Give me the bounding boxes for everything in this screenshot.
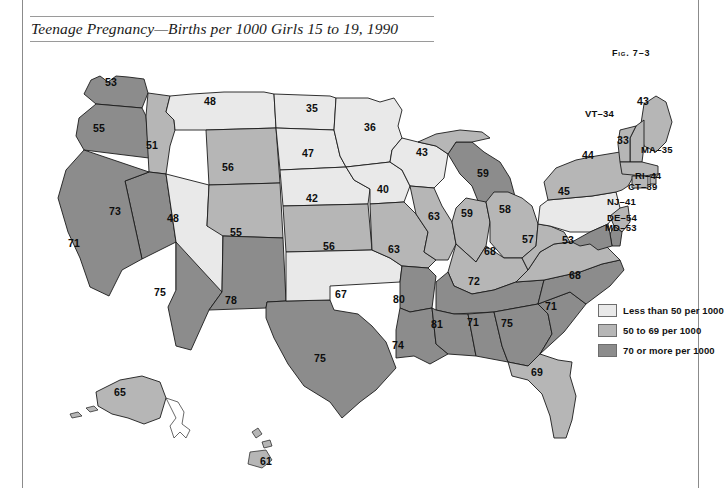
state-value-KY: 68 <box>484 245 496 257</box>
state-value-PA: 45 <box>558 185 570 197</box>
map-legend: Less than 50 per 1000 50 to 69 per 1000 … <box>598 304 716 364</box>
state-OR <box>76 104 149 158</box>
state-value-AZ: 75 <box>154 286 166 298</box>
state-HI-maui <box>262 440 272 448</box>
state-value-MT: 48 <box>204 95 216 107</box>
state-callout-MD: MD–53 <box>605 222 637 233</box>
state-callout-RI: RI–44 <box>635 170 661 181</box>
state-value-OH: 58 <box>499 203 511 215</box>
state-value-MS: 81 <box>431 318 443 330</box>
title-rule-top <box>30 16 434 17</box>
state-callout-CT: CT–39 <box>628 181 658 192</box>
state-value-HI: 61 <box>260 455 272 467</box>
state-value-SD: 47 <box>302 147 314 159</box>
state-value-NH: 33 <box>617 134 629 146</box>
state-CO <box>207 183 283 238</box>
state-value-TN: 72 <box>468 275 480 287</box>
state-value-FL: 69 <box>531 366 543 378</box>
state-value-NE: 42 <box>306 192 318 204</box>
legend-row-high: 70 or more per 1000 <box>598 344 716 357</box>
state-value-MO: 63 <box>388 243 400 255</box>
state-HI <box>252 428 262 438</box>
state-value-UT: 48 <box>167 212 179 224</box>
state-value-OR: 55 <box>93 122 105 134</box>
state-AR <box>400 266 436 312</box>
state-TX <box>266 300 396 418</box>
state-value-MI: 59 <box>477 167 489 179</box>
legend-swatch-high <box>598 344 617 357</box>
legend-label-low: Less than 50 per 1000 <box>623 305 724 316</box>
state-callout-MA: MA–35 <box>641 144 673 155</box>
state-value-MN: 36 <box>364 121 376 133</box>
frame-rule-right <box>698 0 699 488</box>
state-value-GA: 75 <box>501 317 513 329</box>
state-value-ID: 51 <box>146 139 158 151</box>
title-rule-bottom <box>30 41 434 42</box>
state-value-AK: 65 <box>114 386 126 398</box>
state-NH <box>630 120 644 162</box>
state-value-NC: 68 <box>569 269 581 281</box>
state-value-CO: 55 <box>230 226 242 238</box>
state-value-IN: 59 <box>461 207 473 219</box>
legend-label-high: 70 or more per 1000 <box>623 345 715 356</box>
state-value-KS: 56 <box>323 240 335 252</box>
figure-title: Teenage Pregnancy—Births per 1000 Girls … <box>31 20 461 38</box>
legend-swatch-low <box>598 304 617 317</box>
legend-row-mid: 50 to 69 per 1000 <box>598 324 716 337</box>
state-value-NY: 44 <box>582 149 594 161</box>
state-value-AL: 71 <box>467 316 479 328</box>
state-value-NV: 73 <box>109 205 121 217</box>
state-callout-NJ: NJ–41 <box>607 196 636 207</box>
frame-rule-left <box>22 0 23 488</box>
state-value-CA: 71 <box>68 237 80 249</box>
state-value-AR: 80 <box>393 293 405 305</box>
state-value-WI: 43 <box>416 146 428 158</box>
state-AK <box>96 376 166 424</box>
legend-row-low: Less than 50 per 1000 <box>598 304 716 317</box>
state-WY <box>206 128 280 185</box>
state-value-IA: 40 <box>377 183 389 195</box>
state-callout-VT: VT–34 <box>585 108 614 119</box>
legend-swatch-mid <box>598 324 617 337</box>
state-value-WV: 57 <box>522 233 534 245</box>
alaska-outline-detail <box>166 398 190 438</box>
state-value-SC: 71 <box>545 300 557 312</box>
state-value-LA: 74 <box>392 339 404 351</box>
state-value-VA: 53 <box>562 234 574 246</box>
state-value-OK: 67 <box>335 288 347 300</box>
state-value-NM: 78 <box>225 294 237 306</box>
state-AK-aleutians <box>70 406 98 418</box>
state-value-TX: 75 <box>314 352 326 364</box>
state-value-ND: 35 <box>306 102 318 114</box>
state-value-IL: 63 <box>428 210 440 222</box>
legend-label-mid: 50 to 69 per 1000 <box>623 325 701 336</box>
state-value-WA: 53 <box>105 76 117 88</box>
state-MT <box>166 92 276 130</box>
state-value-WY: 56 <box>222 161 234 173</box>
state-value-ME: 43 <box>637 95 649 107</box>
